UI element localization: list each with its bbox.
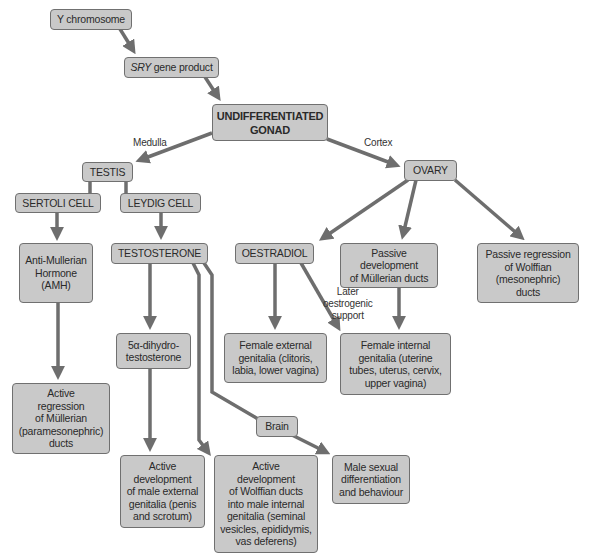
node-ovary: OVARY [404,160,457,181]
node-sry-gene-product: SRY gene product [124,57,219,78]
node-passive-regression-wolffian: Passive regression of Wolffian (mesoneph… [477,243,579,303]
node-active-development-wolffian: Active development of Wolffian ducts int… [214,455,318,553]
node-label: OVARY [413,164,448,177]
node-female-external-genitalia: Female external genitalia (clitoris, lab… [224,333,327,383]
node-dihydrotestosterone: 5α-dihydro- testosterone [116,333,191,369]
node-label: TESTIS [90,166,126,179]
node-label: Male sexual differentiation and behaviou… [339,461,403,499]
node-label: OESTRADIOL [242,247,308,260]
node-label: gene product [151,61,213,74]
node-testis: TESTIS [82,162,133,182]
node-label: Brain [265,420,289,433]
node-label: SERTOLI CELL [22,197,93,210]
node-label: TESTOSTERONE [118,247,201,260]
node-active-development-male-external: Active development of male external geni… [120,455,205,528]
node-y-chromosome: Y chromosome [50,9,132,30]
node-label: LEYDIG CELL [128,197,194,210]
edge-label-medulla: Medulla [133,137,167,149]
node-label: 5α-dihydro- testosterone [126,339,181,364]
node-leydig-cell: LEYDIG CELL [120,193,201,213]
node-passive-development-mullerian: Passive development of Müllerian ducts [340,243,438,288]
node-label-italic: SRY [130,61,151,74]
edge-label-cortex: Cortex [364,137,392,149]
node-oestradiol: OESTRADIOL [235,243,314,264]
node-active-regression-mullerian: Active regression of Müllerian (parameso… [12,383,110,454]
node-undifferentiated-gonad: UNDIFFERENTIATED GONAD [212,104,328,141]
node-label: Active development of male external geni… [127,460,199,523]
edge-label-later-oestrogenic-support: Later oestrogenic support [323,286,373,322]
node-male-sexual-differentiation: Male sexual differentiation and behaviou… [332,455,410,504]
node-sertoli-cell: SERTOLI CELL [15,193,101,213]
node-female-internal-genitalia: Female internal genitalia (uterine tubes… [340,333,451,395]
node-label: Active development of Wolffian ducts int… [220,460,312,548]
node-label: Female internal genitalia (uterine tubes… [349,339,441,389]
node-anti-mullerian-hormone: Anti-Mullerian Hormone (AMH) [19,243,93,303]
node-testosterone: TESTOSTERONE [111,243,208,264]
sex-differentiation-diagram: Y chromosome SRY gene product UNDIFFEREN… [0,0,589,557]
node-label: Female external genitalia (clitoris, lab… [232,339,318,377]
node-brain: Brain [256,416,298,437]
node-label: UNDIFFERENTIATED GONAD [217,109,324,137]
node-label: Y chromosome [57,13,125,26]
node-label: Active regression of Müllerian (parameso… [19,387,104,450]
node-label: Passive regression of Wolffian (mesoneph… [485,248,570,298]
node-label: Passive development of Müllerian ducts [344,247,434,285]
node-label: Anti-Mullerian Hormone (AMH) [25,254,86,292]
